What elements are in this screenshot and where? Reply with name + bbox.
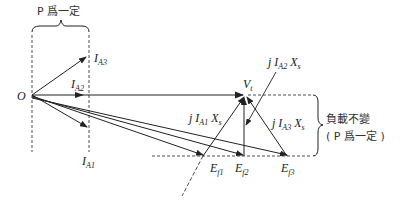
- ia1-label: IA1: [82, 155, 95, 170]
- vt-label: Vt: [243, 78, 253, 93]
- right-note-line2: ( P 爲一定 ): [326, 131, 385, 142]
- phasor-diagram: P 爲一定 O IA3 IA2 IA1 Vt j IA2 Xs j IA1 Xs…: [0, 0, 407, 210]
- ia2-label: IA2: [71, 78, 84, 93]
- origin-label: O: [17, 90, 26, 102]
- ef3-arrow: [32, 98, 287, 155]
- ef1-label: Ef1: [210, 162, 224, 177]
- right-brace: [313, 95, 323, 156]
- top-title: P 爲一定: [37, 6, 80, 17]
- top-brace: [32, 20, 89, 32]
- jia1xs-extension: [182, 156, 203, 196]
- right-note-line1: 負載不變: [326, 114, 370, 125]
- ef2-label: Ef2: [235, 162, 249, 177]
- phasor-diagram-svg: [0, 0, 407, 210]
- jia2xs-label: j IA2 Xs: [268, 56, 301, 71]
- jia3xs-label: j IA3 Xs: [272, 117, 305, 132]
- ef1-arrow: [32, 96, 203, 155]
- jia1xs-label: j IA1 Xs: [189, 112, 222, 127]
- ia3-label: IA3: [94, 52, 107, 67]
- ef3-label: Ef3: [281, 162, 295, 177]
